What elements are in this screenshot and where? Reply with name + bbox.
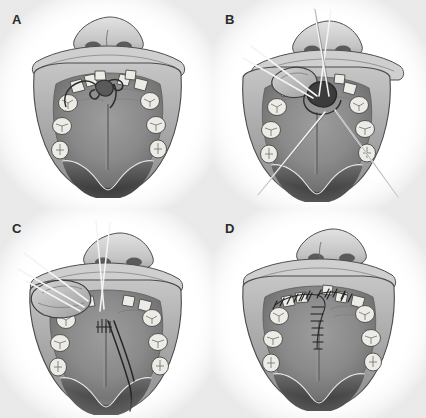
- panel-label-b: B: [225, 12, 235, 27]
- panel-label-d: D: [225, 221, 235, 236]
- panel-label-c: C: [12, 221, 22, 236]
- vignette-b: [213, 0, 426, 209]
- panel-d-illustration: [213, 209, 426, 418]
- panel-a: A: [0, 0, 213, 209]
- panel-a-illustration: [0, 0, 213, 209]
- vignette-d: [213, 209, 426, 418]
- panel-c-illustration: [0, 209, 213, 418]
- panel-b-illustration: [213, 0, 426, 209]
- figure-root: A: [0, 0, 426, 418]
- vignette-a: [0, 0, 213, 209]
- panel-b: B: [213, 0, 426, 209]
- panel-c: C: [0, 209, 213, 418]
- vignette-c: [0, 209, 213, 418]
- panel-d: D: [213, 209, 426, 418]
- panel-label-a: A: [12, 12, 22, 27]
